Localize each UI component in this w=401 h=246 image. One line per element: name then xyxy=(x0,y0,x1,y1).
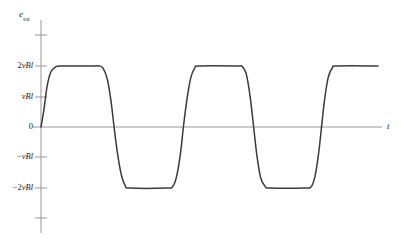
figure-root: etot t 2vBl vBl 0 −vBl −2vBl xyxy=(0,0,401,246)
y-tick-body: vBl xyxy=(22,151,33,161)
y-tick-label-neg-2vBl: −2vBl xyxy=(0,183,33,192)
x-axis-label: t xyxy=(387,122,390,131)
y-tick-body: vBl xyxy=(22,182,33,192)
y-tick-label-zero: 0 xyxy=(0,122,33,131)
y-tick-prefix: −2 xyxy=(13,182,22,192)
y-tick-body: vBl xyxy=(22,91,33,101)
y-axis-label: etot xyxy=(19,10,29,21)
y-tick-label-neg-vBl: −vBl xyxy=(0,152,33,161)
y-axis-label-subscript: tot xyxy=(23,16,29,22)
y-tick-label-vBl: vBl xyxy=(0,92,33,101)
y-tick-body: vBl xyxy=(22,60,33,70)
y-tick-label-2vBl: 2vBl xyxy=(0,61,33,70)
waveform-plot xyxy=(0,0,401,246)
